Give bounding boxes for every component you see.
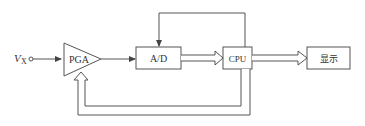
input-label-subscript: X [21,57,27,66]
block-diagram: V X PGA A/D CPU 显示 [0,0,365,126]
input-terminal: V X [14,52,61,66]
cpu-to-pga-gain-bus-arrow [74,69,250,115]
pga-block: PGA [64,43,101,76]
cpu-to-display-bus-arrow [252,51,307,65]
cpu-to-adc-control-line [159,13,245,47]
cpu-label: CPU [229,54,247,64]
adc-label: A/D [150,53,167,64]
input-node-icon [29,57,33,61]
display-block: 显示 [307,47,350,69]
pga-label: PGA [69,54,90,65]
adc-block: A/D [136,47,181,69]
cpu-block: CPU [223,47,252,69]
adc-to-cpu-bus-arrow [181,51,223,65]
display-label: 显示 [320,54,338,64]
